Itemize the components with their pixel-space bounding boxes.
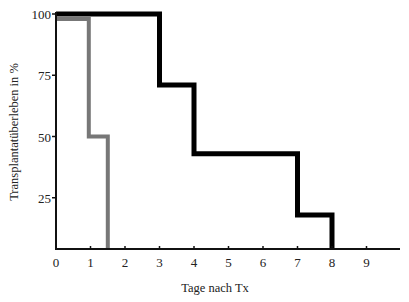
x-tick-label: 4 <box>191 255 198 270</box>
y-tick-label: 50 <box>38 130 51 145</box>
x-tick-label: 0 <box>53 255 60 270</box>
x-tick-label: 3 <box>156 255 163 270</box>
series-gray-line <box>56 19 108 249</box>
x-tick-label: 1 <box>87 255 94 270</box>
y-tick-label: 25 <box>38 191 51 206</box>
x-tick-label: 6 <box>260 255 267 270</box>
y-ticks: 255075100 <box>32 7 57 206</box>
x-tick-label: 8 <box>329 255 336 270</box>
x-tick-label: 5 <box>225 255 232 270</box>
x-tick-label: 7 <box>294 255 301 270</box>
y-axis-label: Transplantatüberleben in % <box>7 63 21 201</box>
y-tick-label: 75 <box>38 68 51 83</box>
survival-chart: 0123456789 255075100 Tage nach Tx Transp… <box>0 0 409 302</box>
y-tick-label: 100 <box>32 7 52 22</box>
x-axis-label: Tage nach Tx <box>181 281 249 295</box>
x-tick-label: 9 <box>363 255 370 270</box>
series-black-line <box>56 14 332 249</box>
x-tick-label: 2 <box>122 255 129 270</box>
series-layer <box>56 14 332 249</box>
